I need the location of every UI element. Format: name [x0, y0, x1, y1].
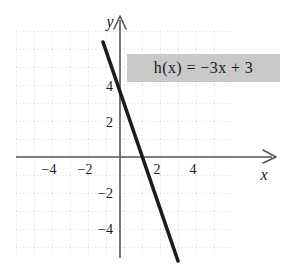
- equation-label: h(x) = −3x + 3: [127, 54, 280, 82]
- y-axis-label: y: [104, 13, 114, 31]
- x-axis-label: x: [259, 166, 267, 183]
- x-tick-label-2: 2: [154, 162, 161, 177]
- x-tick-label-neg2: −2: [78, 162, 93, 177]
- y-tick-label-neg2: −2: [98, 186, 113, 201]
- equation-text: h(x) = −3x + 3: [154, 59, 253, 77]
- y-tick-label-2: 2: [106, 115, 113, 130]
- graph-figure: x y −4 −2 2 4 4 2 −2 −4 h(x) = −3x + 3: [0, 0, 289, 271]
- y-tick-label-neg4: −4: [98, 222, 113, 237]
- y-tick-label-4: 4: [106, 79, 113, 94]
- coordinate-plane: x y −4 −2 2 4 4 2 −2 −4: [0, 0, 289, 271]
- x-tick-label-neg4: −4: [42, 162, 57, 177]
- x-tick-label-4: 4: [190, 162, 197, 177]
